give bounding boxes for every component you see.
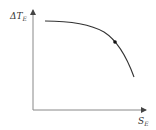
- curve: [45, 21, 134, 77]
- y-axis-label-subscript: E: [22, 15, 28, 22]
- marked-point: [113, 40, 117, 44]
- x-axis-label-subscript: E: [143, 120, 149, 127]
- y-axis-label-main: ΔT: [9, 11, 23, 21]
- x-axis-label: SE: [138, 116, 149, 127]
- y-axis-label: ΔTE: [9, 11, 28, 22]
- diagram: ΔTE SE: [0, 0, 156, 130]
